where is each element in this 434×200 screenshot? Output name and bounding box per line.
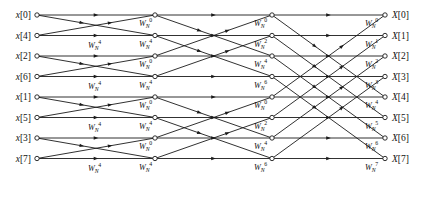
twiddle-stage2-3: WN4 [139,79,152,91]
twiddle-stage3-6: WN4 [254,140,267,152]
twiddle-stage4-3-text: WN3 [365,79,378,91]
twiddle-stage4-4-text: WN4 [365,99,378,111]
stage-2-cross-up-arrow-0 [225,30,230,33]
node-col3-row1 [383,33,387,37]
twiddle-stage2-6: WN0 [139,140,152,152]
stage-1-cross-down-arrow-1 [79,62,84,65]
twiddle-stage2-0: WN0 [139,17,152,29]
node-col2-row3 [270,74,274,78]
stage-2-cross-up-arrow-3 [225,132,230,135]
twiddle-stage3-3-text: WN6 [254,79,267,91]
node-col2-row7 [270,156,274,160]
twiddle-stage3-7: WN6 [254,161,267,173]
twiddle-stage1-2: WN4 [88,121,101,133]
twiddle-stage4-2-text: WN2 [365,58,378,70]
stage-3-through-arrow-7 [326,157,331,160]
stage-2-through-arrow-6 [211,136,216,139]
node-col1-row3 [153,74,157,78]
node-col3-row4 [383,95,387,99]
stage-1-cross-up-arrow-0 [108,22,113,25]
twiddle-stage1-0-text: WN4 [88,39,101,51]
node-col3-row5 [383,115,387,119]
node-col2-row0 [270,13,274,17]
node-col1-row4 [153,95,157,99]
twiddle-stage4-0: WN0 [365,17,378,29]
io-labels-layer: x[0]x[4]x[2]x[6]x[1]x[5]x[3]x[7]X[0]X[1]… [15,10,409,164]
twiddle-stage4-1: WN1 [365,38,378,50]
twiddle-stage2-2: WN0 [139,58,152,70]
output-label-0: X[0] [391,10,409,20]
output-label-2: X[2] [391,51,409,61]
fft-flow-graph-canvas: WN4WN4WN4WN4WN0WN4WN0WN4WN0WN4WN0WN4WN0W… [0,0,434,200]
stage-2-cross-down-arrow-1 [197,49,202,52]
input-label-3: x[6] [15,72,31,82]
input-label-6: x[3] [15,133,31,143]
twiddle-stage2-4-text: WN0 [139,99,152,111]
twiddle-stage3-1-text: WN2 [254,38,267,50]
twiddle-stage4-5: WN5 [365,120,378,132]
stage-2-through-arrow-0 [211,13,216,16]
stage-1-through-arrow-6 [94,136,99,139]
stage-2-cross-down-arrow-0 [197,28,202,31]
twiddle-stage4-2: WN2 [365,58,378,70]
twiddle-stage3-5: WN2 [254,120,267,132]
twiddle-stage1-0: WN4 [88,39,101,51]
node-col1-row6 [153,136,157,140]
twiddle-stage2-7: WN4 [139,161,152,173]
twiddle-stage2-5: WN4 [139,120,152,132]
stage-1-cross-down-arrow-0 [79,21,84,24]
stage-2-cross-up-arrow-2 [225,112,230,115]
node-col2-row2 [270,54,274,58]
node-col1-row5 [153,115,157,119]
node-col1-row0 [153,13,157,17]
twiddle-stage2-4: WN0 [139,99,152,111]
twiddle-stage1-1-text: WN4 [88,80,101,92]
twiddle-stage3-7-text: WN6 [254,161,267,173]
twiddle-stage3-0-text: WN0 [254,17,267,29]
twiddle-stage3-4-text: WN0 [254,99,267,111]
twiddle-stage4-4: WN4 [365,99,378,111]
input-label-2: x[2] [15,51,31,61]
node-col0-row2 [35,54,39,58]
stage-2-through-arrow-7 [211,157,216,160]
twiddle-stage4-3: WN3 [365,79,378,91]
node-col1-row7 [153,156,157,160]
stage-2-cross-down-arrow-3 [197,131,202,134]
node-col3-row7 [383,156,387,160]
twiddle-stage2-7-text: WN4 [139,161,152,173]
stage-1-through-arrow-1 [94,34,99,37]
output-label-3: X[3] [391,72,409,82]
twiddle-stage1-3-text: WN4 [88,162,101,174]
twiddle-stage3-5-text: WN2 [254,120,267,132]
stage-1-through-arrow-0 [94,13,99,16]
stage-2-through-arrow-4 [211,95,216,98]
twiddle-stage1-3: WN4 [88,162,101,174]
node-col2-row6 [270,136,274,140]
node-col1-row1 [153,33,157,37]
twiddle-stage4-5-text: WN5 [365,120,378,132]
output-label-4: X[4] [391,92,409,102]
node-col1-row2 [153,54,157,58]
node-col0-row3 [35,74,39,78]
twiddle-stage4-6: WN6 [365,140,378,152]
twiddle-stage2-1-text: WN4 [139,38,152,50]
node-col2-row4 [270,95,274,99]
stage-2-cross-up-arrow-1 [225,50,230,53]
stage-1-through-arrow-5 [94,116,99,119]
node-col3-row3 [383,74,387,78]
stage-1-cross-down-arrow-2 [79,103,84,106]
twiddle-stage3-0: WN0 [254,17,267,29]
twiddle-stage2-3-text: WN4 [139,79,152,91]
stage-1-through-arrow-2 [94,54,99,57]
stage-2-cross-down-arrow-2 [197,110,202,113]
node-col0-row6 [35,136,39,140]
twiddle-stage1-1: WN4 [88,80,101,92]
stage-1-cross-up-arrow-1 [108,63,113,66]
output-label-5: X[5] [391,113,409,123]
stage-1-cross-down-arrow-3 [79,144,84,147]
twiddle-stage4-7-text: WN7 [365,161,378,173]
output-label-7: X[7] [391,154,409,164]
stage-3-through-arrow-1 [326,34,331,37]
input-label-7: x[7] [15,154,31,164]
stage-1-cross-up-arrow-3 [108,145,113,148]
